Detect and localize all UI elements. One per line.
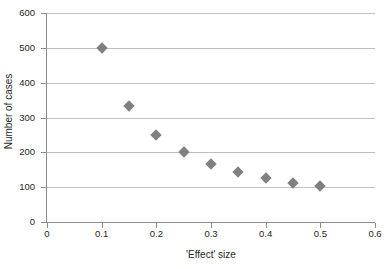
x-tick-label: 0.3 bbox=[204, 229, 217, 239]
y-tick-label: 0 bbox=[30, 217, 35, 227]
y-tick bbox=[41, 48, 46, 49]
x-tick-label: 0.1 bbox=[95, 229, 108, 239]
y-tick-label: 500 bbox=[19, 43, 35, 53]
y-tick bbox=[41, 13, 46, 14]
x-axis-title: 'Effect' size bbox=[47, 249, 375, 260]
gridline-y bbox=[47, 152, 375, 153]
plot-area bbox=[47, 13, 375, 222]
x-tick-label: 0.6 bbox=[368, 229, 381, 239]
y-axis-title: Number of cases bbox=[2, 0, 16, 222]
y-tick bbox=[41, 222, 46, 223]
y-tick-label: 400 bbox=[19, 78, 35, 88]
x-tick-label: 0.2 bbox=[150, 229, 163, 239]
y-tick bbox=[41, 118, 46, 119]
gridline-y bbox=[47, 83, 375, 84]
gridline-y bbox=[47, 13, 375, 14]
y-tick-label: 300 bbox=[19, 113, 35, 123]
y-axis-title-label: Number of cases bbox=[4, 73, 15, 149]
y-tick-label: 100 bbox=[19, 182, 35, 192]
x-tick-label: 0.4 bbox=[259, 229, 272, 239]
x-tick-label: 0 bbox=[44, 229, 49, 239]
y-tick-label: 200 bbox=[19, 147, 35, 157]
gridline-y bbox=[47, 118, 375, 119]
gridline-y bbox=[47, 187, 375, 188]
scatter-chart: Number of cases 0100200300400500600 00.1… bbox=[0, 0, 384, 269]
y-tick bbox=[41, 83, 46, 84]
y-tick bbox=[41, 187, 46, 188]
y-tick-label: 600 bbox=[19, 8, 35, 18]
y-tick bbox=[41, 152, 46, 153]
x-tick-label: 0.5 bbox=[314, 229, 327, 239]
